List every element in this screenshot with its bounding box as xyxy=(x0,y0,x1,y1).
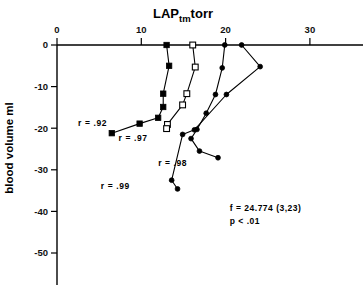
correlation-annotation: r = .92 xyxy=(78,118,107,128)
data-point-marker xyxy=(180,102,186,108)
x-tick-label: 20 xyxy=(220,24,231,35)
chart-figure: LAPtmtorr blood volume ml 0102030 0-10-2… xyxy=(0,0,363,298)
data-point-marker xyxy=(197,149,202,154)
chart-svg: LAPtmtorr blood volume ml 0102030 0-10-2… xyxy=(0,0,363,298)
correlation-annotation: r = .99 xyxy=(101,181,130,191)
title-unit-text: torr xyxy=(191,6,213,21)
data-point-marker xyxy=(180,132,185,137)
stat-annotation: p < .01 xyxy=(230,216,260,226)
title-main-text: LAP xyxy=(153,6,179,21)
data-point-marker xyxy=(189,136,194,141)
data-point-marker xyxy=(192,64,198,70)
chart-title: LAPtmtorr xyxy=(153,6,213,24)
y-tick-label: -30 xyxy=(34,164,48,175)
data-series xyxy=(164,42,198,131)
title-subscript-text: tm xyxy=(179,13,191,24)
data-point-marker xyxy=(239,43,244,48)
data-point-marker xyxy=(222,43,227,48)
chart-title-group: LAPtmtorr xyxy=(153,6,213,24)
y-tick-label: -20 xyxy=(34,123,48,134)
data-point-marker xyxy=(192,127,197,132)
data-point-marker xyxy=(169,178,174,183)
data-point-marker xyxy=(161,91,166,96)
data-point-marker xyxy=(216,155,221,160)
series-line xyxy=(167,45,196,129)
data-point-marker xyxy=(175,187,180,192)
data-point-marker xyxy=(220,65,225,70)
axes-group xyxy=(57,45,363,285)
data-point-marker xyxy=(258,64,263,69)
data-point-marker xyxy=(166,63,171,68)
data-series xyxy=(169,43,262,192)
data-point-marker xyxy=(164,42,169,47)
y-tick-label: 0 xyxy=(43,39,48,50)
data-series xyxy=(109,42,172,136)
data-point-marker xyxy=(184,91,190,97)
data-point-marker xyxy=(161,104,166,109)
x-axis-ticks: 0102030 xyxy=(54,24,315,45)
data-series-group xyxy=(109,42,262,191)
data-point-marker xyxy=(155,115,160,120)
data-point-marker xyxy=(137,121,142,126)
data-point-marker xyxy=(109,130,114,135)
x-tick-label: 10 xyxy=(136,24,147,35)
stat-annotation: f = 24.774 (3,23) xyxy=(230,203,302,213)
data-point-marker xyxy=(190,42,196,48)
y-axis-label: blood volume ml xyxy=(3,102,15,193)
data-point-marker xyxy=(213,92,218,97)
x-tick-label: 30 xyxy=(305,24,316,35)
y-tick-label: -40 xyxy=(34,206,48,217)
y-axis-ticks: 0-10-20-30-40-50 xyxy=(34,39,57,258)
x-tick-label: 0 xyxy=(54,24,59,35)
correlation-annotation: r = .98 xyxy=(158,158,187,168)
data-point-marker xyxy=(224,92,229,97)
correlation-annotation: r = .97 xyxy=(119,133,148,143)
data-point-marker xyxy=(164,126,170,132)
y-tick-label: -50 xyxy=(34,247,48,258)
y-tick-label: -10 xyxy=(34,81,48,92)
